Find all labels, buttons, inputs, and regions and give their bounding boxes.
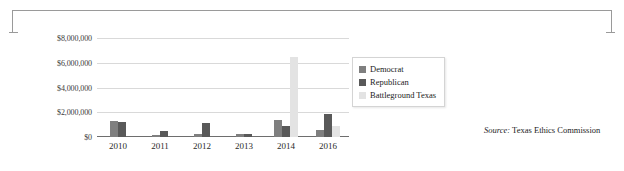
bracket-left-foot [9, 32, 18, 33]
bar-group: 2016 [307, 38, 349, 137]
figure-top-bracket [12, 10, 612, 32]
x-axis-tick-label: 2014 [265, 141, 307, 151]
legend-item: Democrat [359, 64, 436, 74]
x-axis-tick-label: 2010 [97, 141, 139, 151]
legend-item-label: Republican [370, 77, 409, 87]
legend-swatch-icon [359, 66, 366, 73]
bar [316, 130, 324, 137]
bar-group: 2011 [139, 38, 181, 137]
bar [110, 121, 118, 137]
legend-item: Republican [359, 77, 436, 87]
legend-swatch-icon [359, 92, 366, 99]
legend-item-label: Battleground Texas [370, 90, 436, 100]
bar [332, 126, 340, 137]
bar-group: 2012 [181, 38, 223, 137]
legend-rows: DemocratRepublicanBattleground Texas [359, 64, 436, 100]
legend-item: Battleground Texas [359, 90, 436, 100]
bar [274, 120, 282, 137]
x-axis-tick-label: 2012 [181, 141, 223, 151]
chart-plot-area: $0$2,000,000$4,000,000$6,000,000$8,000,0… [97, 38, 349, 137]
source-text: Texas Ethics Commission [512, 125, 600, 135]
bar-group: 2014 [265, 38, 307, 137]
source-label: Source: [484, 125, 510, 135]
bar [244, 134, 252, 137]
bar [236, 134, 244, 137]
figure-container: $0$2,000,000$4,000,000$6,000,000$8,000,0… [0, 0, 624, 171]
legend-swatch-icon [359, 79, 366, 86]
x-axis-tick-label: 2011 [139, 141, 181, 151]
source-note: Source: Texas Ethics Commission [484, 124, 604, 136]
chart-legend: DemocratRepublicanBattleground Texas [352, 57, 445, 107]
bar [118, 122, 126, 137]
bar [282, 126, 290, 137]
y-axis-tick-label: $2,000,000 [57, 108, 92, 117]
bar [152, 135, 160, 137]
bar-group: 2013 [223, 38, 265, 137]
bracket-right-foot [606, 32, 615, 33]
legend-item-label: Democrat [370, 64, 404, 74]
x-axis-tick-label: 2016 [307, 141, 349, 151]
bar [194, 134, 202, 137]
bar-group: 2010 [97, 38, 139, 137]
x-axis-tick-label: 2013 [223, 141, 265, 151]
y-axis-tick-label: $8,000,000 [57, 34, 92, 43]
bar [324, 114, 332, 138]
bar [290, 57, 298, 137]
bar [160, 131, 168, 137]
bar [202, 123, 210, 137]
y-axis-tick-label: $0 [84, 133, 92, 142]
y-axis-tick-label: $6,000,000 [57, 58, 92, 67]
y-axis-tick-label: $4,000,000 [57, 83, 92, 92]
bar-groups: 201020112012201320142016 [97, 38, 349, 137]
